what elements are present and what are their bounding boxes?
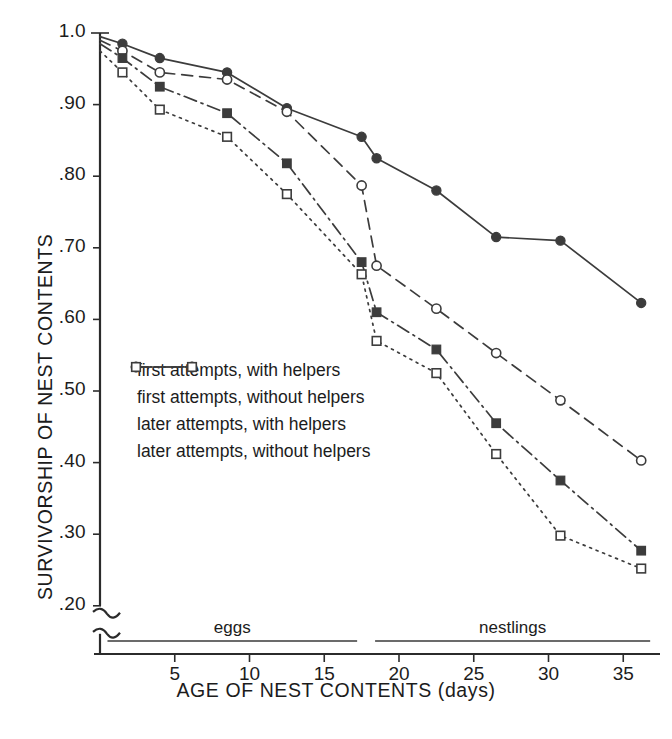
x-tick-label: 35 <box>593 663 653 685</box>
y-tick-label: .60 <box>14 306 86 328</box>
legend-item-3: later attempts, without helpers <box>128 438 370 465</box>
y-tick-label: .80 <box>14 163 86 185</box>
y-tick-label: .40 <box>14 450 86 472</box>
legend-item-2: later attempts, with helpers <box>128 411 370 438</box>
cropped-caption-text <box>40 717 660 737</box>
x-tick-label: 5 <box>145 663 205 685</box>
y-tick-label: .20 <box>14 593 86 615</box>
legend-marker-open-square <box>128 357 200 377</box>
x-tick-label: 30 <box>519 663 579 685</box>
y-tick-label: .50 <box>14 378 86 400</box>
legend-item-1: first attempts, without helpers <box>128 384 370 411</box>
legend-label: later attempts, with helpers <box>128 414 346 435</box>
x-tick-label: 25 <box>444 663 504 685</box>
x-tick-label: 10 <box>220 663 280 685</box>
survivorship-figure: SURVIVORSHIP OF NEST CONTENTS AGE OF NES… <box>0 0 672 739</box>
eggs-phase-label: eggs <box>162 618 302 638</box>
chart-legend: first attempts, with helpersfirst attemp… <box>128 357 370 465</box>
y-tick-label: .70 <box>14 235 86 257</box>
y-tick-label: .90 <box>14 92 86 114</box>
legend-label: first attempts, without helpers <box>128 387 365 408</box>
nestlings-phase-label: nestlings <box>443 618 583 638</box>
y-tick-label: 1.0 <box>14 20 86 42</box>
series-2 <box>100 44 645 555</box>
x-tick-label: 20 <box>369 663 429 685</box>
y-tick-label: .30 <box>14 521 86 543</box>
x-tick-label: 15 <box>294 663 354 685</box>
legend-label: later attempts, without helpers <box>128 441 370 462</box>
